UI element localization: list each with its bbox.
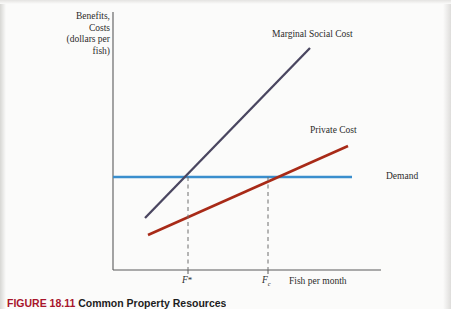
- y-axis-title: Benefits, Costs (dollars per fish): [42, 11, 110, 57]
- figure-number: FIGURE 18.11: [7, 297, 75, 309]
- y-axis-title-line-2: Costs: [89, 23, 110, 33]
- figure-container: Benefits, Costs (dollars per fish) Margi…: [0, 0, 451, 309]
- x-tick-label-f-star: F*: [182, 275, 192, 285]
- tick-fc-subscript: c: [268, 280, 271, 287]
- y-axis-title-line-3: (dollars per: [66, 34, 110, 44]
- tick-f-star-mark: *: [188, 275, 193, 285]
- x-tick-label-fc: Fc: [262, 275, 271, 287]
- y-axis-title-line-1: Benefits,: [76, 11, 110, 21]
- demand-label: Demand: [386, 171, 418, 183]
- marginal-social-cost-label: Marginal Social Cost: [272, 29, 353, 41]
- private-cost-line: [148, 146, 348, 235]
- figure-title: Common Property Resources: [78, 297, 226, 309]
- figure-caption: FIGURE 18.11 Common Property Resources: [7, 297, 226, 309]
- marginal-social-cost-line: [145, 48, 310, 218]
- private-cost-label: Private Cost: [310, 125, 357, 137]
- y-axis-title-line-4: fish): [93, 46, 110, 56]
- x-axis-title: Fish per month: [289, 276, 347, 288]
